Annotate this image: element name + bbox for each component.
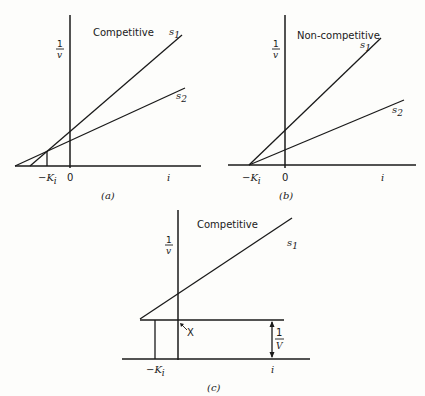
y-label-numerator: 1 (273, 39, 279, 49)
panel-c: X Competitive s1 1 v 1 V −Ki i (c) (122, 210, 310, 393)
s1-label: s1 (169, 26, 180, 40)
panel-title: Competitive (197, 219, 258, 230)
line-s1 (140, 218, 292, 319)
x-label: i (167, 172, 170, 183)
s2-label: s2 (176, 90, 187, 104)
arrow-down-icon (270, 352, 275, 358)
vmax-label-numerator: 1 (276, 327, 282, 338)
y-label-denominator: v (273, 50, 278, 60)
figure-canvas: Competitive s1 s2 1 v −Ki 0 i (a) Non-co… (0, 0, 425, 396)
line-s2 (15, 88, 185, 166)
ki-label: −Ki (38, 172, 57, 186)
line-s2 (249, 100, 404, 165)
panel-a: Competitive s1 s2 1 v −Ki 0 i (a) (15, 15, 201, 201)
y-label-numerator: 1 (166, 235, 172, 245)
panel-title: Competitive (93, 27, 154, 38)
ki-label: −Ki (242, 172, 261, 186)
panel-title: Non-competitive (297, 30, 380, 41)
s1-label: s1 (360, 39, 371, 53)
vmax-label-denominator: V (276, 341, 284, 351)
panel-caption: (c) (207, 382, 221, 393)
origin-label: 0 (67, 172, 73, 183)
arrow-up-icon (270, 321, 275, 327)
y-label-numerator: 1 (57, 39, 63, 49)
ki-label: −Ki (146, 364, 165, 378)
s1-label: s1 (287, 237, 298, 251)
panel-caption: (b) (279, 190, 293, 201)
panel-caption: (a) (101, 190, 115, 201)
origin-label: 0 (282, 172, 288, 183)
y-label-denominator: v (166, 246, 171, 256)
panel-b: Non-competitive s1 s2 1 v −Ki 0 i (b) (228, 15, 416, 201)
y-label-denominator: v (57, 50, 62, 60)
point-x-label: X (187, 327, 194, 338)
figure: Competitive s1 s2 1 v −Ki 0 i (a) Non-co… (0, 0, 425, 396)
s2-label: s2 (392, 104, 403, 118)
x-label: i (381, 172, 384, 183)
x-label: i (271, 364, 274, 375)
line-s1 (249, 38, 381, 165)
